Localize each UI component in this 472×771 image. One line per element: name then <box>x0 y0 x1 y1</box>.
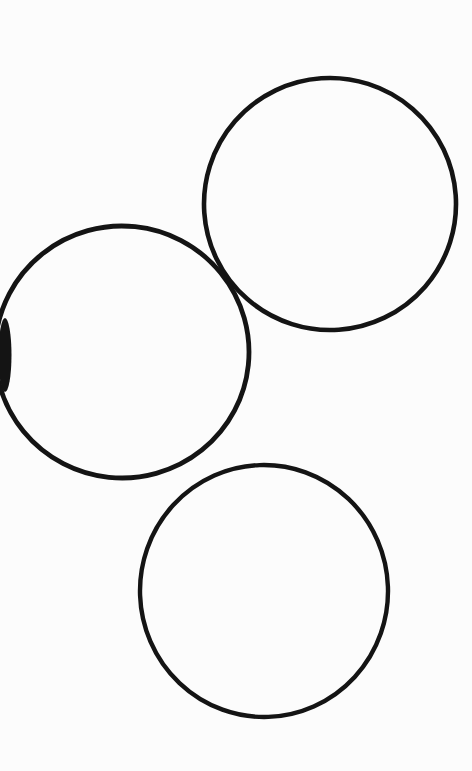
drawing-canvas <box>0 0 472 771</box>
paper-background <box>0 0 472 771</box>
circles-drawing <box>0 0 472 771</box>
